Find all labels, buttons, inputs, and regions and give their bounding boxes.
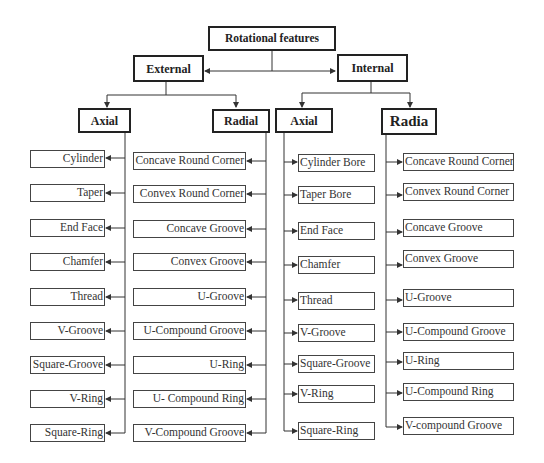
int-radial-item: Concave Round Corner	[403, 153, 514, 171]
rotational-features-diagram: Rotational features External Internal Ax…	[0, 0, 544, 463]
ext-axial-item: Square-Groove	[30, 356, 105, 374]
ext-axial-item: Square-Ring	[30, 424, 105, 442]
ext-radial-item: Convex Round Corner	[133, 185, 246, 203]
ext-radial-item: Concave Groove	[133, 220, 246, 238]
ext-radial-item: V-Compound Groove	[133, 424, 246, 442]
int-axial-item: V-Groove	[298, 324, 375, 342]
int-radial-item: U-Ring	[403, 352, 514, 370]
int-radial-item: Convex Groove	[403, 250, 514, 268]
int-radial-item: Convex Round Corner	[403, 183, 514, 201]
ext-axial-item: Cylinder	[30, 150, 105, 168]
int-axial-item: Chamfer	[298, 256, 375, 274]
external-node: External	[133, 55, 204, 82]
ext-radial-item: Concave Round Corner	[133, 152, 246, 170]
int-axial-item: Taper Bore	[298, 186, 375, 204]
ext-axial-item: Taper	[30, 184, 105, 202]
internal-node: Internal	[337, 54, 408, 82]
external-axial-node: Axial	[78, 108, 131, 133]
ext-radial-item: U- Compound Ring	[133, 390, 246, 408]
ext-axial-item: End Face	[30, 219, 105, 237]
root-node: Rotational features	[208, 26, 336, 51]
int-axial-item: Thread	[298, 292, 375, 310]
internal-radial-node: Radia	[381, 108, 437, 135]
external-radial-node: Radial	[212, 109, 270, 133]
int-axial-item: Square-Groove	[298, 355, 375, 373]
ext-radial-item: U-Compound Groove	[133, 322, 246, 340]
ext-axial-item: V-Groove	[30, 322, 105, 340]
int-axial-item: Cylinder Bore	[298, 154, 375, 172]
int-axial-item: Square-Ring	[298, 422, 375, 440]
internal-axial-node: Axial	[275, 108, 333, 133]
int-radial-item: U-Compound Ring	[403, 383, 514, 401]
ext-radial-item: U-Ring	[133, 356, 246, 374]
ext-radial-item: Convex Groove	[133, 253, 246, 271]
ext-axial-item: V-Ring	[30, 390, 105, 408]
ext-axial-item: Chamfer	[30, 253, 105, 271]
int-axial-item: End Face	[298, 222, 375, 240]
ext-axial-item: Thread	[30, 288, 105, 306]
int-axial-item: V-Ring	[298, 385, 375, 403]
ext-radial-item: U-Groove	[133, 288, 246, 306]
int-radial-item: U-Compound Groove	[403, 323, 514, 341]
int-radial-item: U-Groove	[403, 289, 514, 307]
int-radial-item: V-compound Groove	[403, 417, 514, 435]
int-radial-item: Concave Groove	[403, 219, 514, 237]
